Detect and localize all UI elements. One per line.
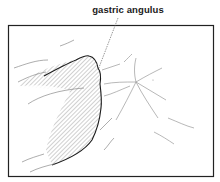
- pylorus-dot: [152, 79, 153, 80]
- endoscopic-diagram: [0, 0, 220, 182]
- radiating-folds-pylorus: [102, 54, 194, 144]
